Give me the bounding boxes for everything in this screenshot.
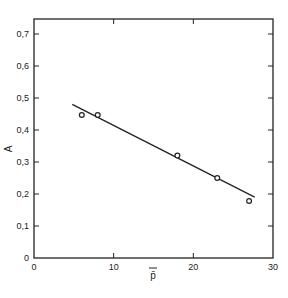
x-tick-label: 10 [109,262,119,272]
data-point-marker [79,113,84,118]
y-tick-label: 0,2 [16,189,29,199]
data-point-marker [95,113,100,118]
y-tick-label: 0,6 [16,61,29,71]
y-axis-label: A [3,145,14,152]
data-point-marker [175,153,180,158]
x-axis-ticks: 0102030 [31,19,278,272]
y-tick-label: 0 [24,253,29,263]
y-tick-label: 0,7 [16,29,29,39]
y-tick-label: 0,3 [16,157,29,167]
data-point-marker [215,176,220,181]
y-tick-label: 0,5 [16,93,29,103]
plot-border [34,19,273,258]
x-axis-label: p̄ [150,270,156,281]
x-tick-label: 20 [188,262,198,272]
data-points [79,113,251,204]
scatter-chart: 00,10,20,30,40,50,60,7 0102030 p̄ A [0,0,288,298]
y-axis-ticks: 00,10,20,30,40,50,60,7 [16,29,273,263]
plot-frame [34,19,273,258]
regression-line [72,104,254,197]
x-tick-label: 0 [31,262,36,272]
x-tick-label: 30 [268,262,278,272]
y-tick-label: 0,1 [16,221,29,231]
data-point-marker [247,199,252,204]
y-tick-label: 0,4 [16,125,29,135]
fit-line [72,104,254,197]
